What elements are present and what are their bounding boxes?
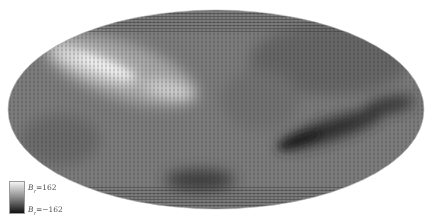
colorbar-min-label: Br=−162 — [28, 205, 63, 216]
colorbar-max-value: =162 — [36, 183, 57, 192]
colorbar — [9, 181, 25, 214]
colorbar-max-label: Br=162 — [28, 183, 57, 194]
sky-map — [0, 0, 432, 219]
colorbar-min-value: =−162 — [36, 205, 63, 214]
mollweide-map — [0, 0, 432, 219]
